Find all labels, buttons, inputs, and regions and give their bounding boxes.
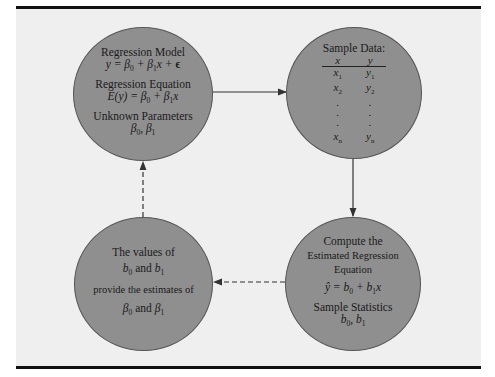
- header-y: y: [354, 55, 386, 67]
- estimates-node: The values of b0 and b1 provide the esti…: [74, 217, 213, 351]
- model-equation: y = β0 + β1x + ϵ: [106, 58, 181, 75]
- sample-stats: b0, b1: [341, 313, 366, 330]
- params-label: Unknown Parameters: [93, 110, 192, 122]
- compute-line3: Equation: [334, 264, 372, 276]
- stats-label: Sample Statistics: [314, 301, 393, 313]
- compute-line1: Compute the: [323, 235, 382, 247]
- connector-arrows: [0, 0, 495, 377]
- population-model-node: Regression Model y = β0 + β1x + ϵ Regres…: [73, 27, 213, 161]
- table-row: ..: [322, 117, 387, 127]
- model-label: Regression Model: [101, 46, 185, 58]
- table-row: ..: [322, 107, 387, 117]
- sample-data-table: x y x1y1 x2y2 .. .. .. xnyn: [322, 55, 387, 147]
- table-row: x2y2: [322, 82, 387, 97]
- estimates-line2: b0 and b1: [123, 262, 164, 279]
- table-row: x1y1: [322, 67, 387, 83]
- estimated-equation: ŷ = b0 + b1x: [325, 281, 381, 298]
- unknown-params: β0, β1: [131, 122, 156, 139]
- estimates-line1: The values of: [112, 246, 175, 258]
- sample-data-node: Sample Data: x y x1y1 x2y2 .. .. .. xnyn: [286, 27, 422, 159]
- compute-estimated-equation-node: Compute the Estimated Regression Equatio…: [285, 217, 421, 351]
- sample-data-title: Sample Data:: [323, 42, 385, 54]
- estimates-line4: β0 and β1: [123, 302, 164, 319]
- estimates-line3: provide the estimates of: [93, 284, 194, 296]
- header-x: x: [322, 55, 354, 67]
- compute-line2: Estimated Regression: [307, 250, 398, 262]
- table-row: xnyn: [322, 127, 387, 146]
- equation-label: Regression Equation: [95, 78, 191, 90]
- expected-value-equation: E(y) = β0 + β1x: [108, 90, 179, 107]
- table-row: ..: [322, 97, 387, 107]
